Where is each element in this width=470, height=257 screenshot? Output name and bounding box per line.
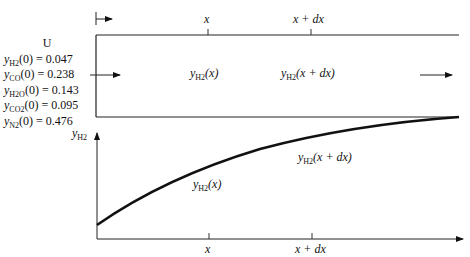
curve-label-yh2-x: yH2(x) (193, 177, 221, 192)
inlet-row-co: yCO(0) = 0.238 (4, 67, 90, 83)
reactor-label-yh2-x-plus-dx: yH2(x + dx) (281, 66, 335, 81)
top-label-x-plus-dx: x + dx (293, 12, 324, 27)
plot-tick-label-x-plus-dx: x + dx (295, 242, 326, 257)
reactor-label-yh2-x: yH2(x) (190, 66, 218, 81)
inlet-row-h2o: yH2O(0) = 0.143 (4, 83, 90, 99)
inlet-composition: U yH2(0) = 0.047 yCO(0) = 0.238 yH2O(0) … (4, 36, 90, 130)
top-label-x: x (204, 12, 209, 27)
plot-axes (97, 133, 463, 239)
entrance-marker-icon (96, 12, 112, 25)
inlet-row-co2: yCO2(0) = 0.095 (4, 98, 90, 114)
curve-label-yh2-x-plus-dx: yH2(x + dx) (298, 150, 352, 165)
plot-y-axis-label: yH2 (72, 126, 87, 141)
reactor-channel (96, 29, 459, 117)
inlet-velocity-label: U (4, 36, 90, 52)
yh2-curve (97, 117, 459, 225)
plot-tick-label-x: x (205, 242, 210, 257)
inlet-row-h2: yH2(0) = 0.047 (4, 52, 90, 68)
